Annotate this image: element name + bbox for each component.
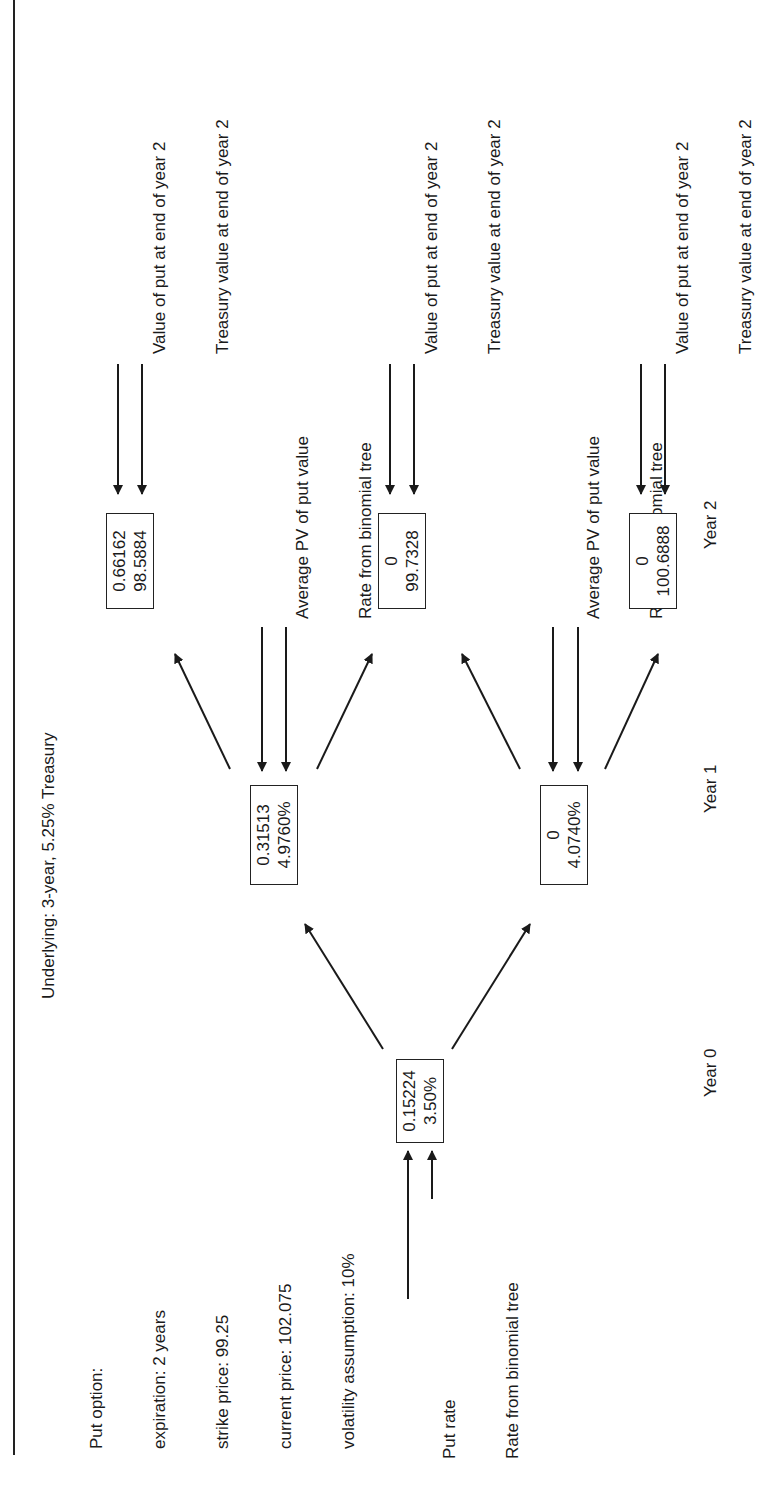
year2-mid-legend: Value of put at end of year 2 Treasury v… xyxy=(379,119,547,354)
node-year2-upup-put: 0.66162 xyxy=(109,520,130,602)
year2-downdown-legend-treasury: Treasury value at end of year 2 xyxy=(735,119,756,354)
node-year2-downdown-put: 0 xyxy=(632,520,653,602)
year-label-1: Year 1 xyxy=(700,764,721,813)
year2-downdown-legend-put: Value of put at end of year 2 xyxy=(672,119,693,354)
year2-mid-legend-treasury: Treasury value at end of year 2 xyxy=(484,119,505,354)
node-year0-rate: 3.50% xyxy=(420,1066,441,1136)
node-year2-upup-treasury: 98.5884 xyxy=(130,520,151,602)
year-label-0: Year 0 xyxy=(700,1048,721,1097)
node-year2-mid-treasury: 99.7328 xyxy=(402,520,423,602)
node-year0: 0.15224 3.50% xyxy=(396,1059,444,1143)
node-year1-down: 0 4.0740% xyxy=(540,785,588,885)
node-year1-up-put: 0.31513 xyxy=(253,792,274,878)
node-year1-down-put: 0 xyxy=(543,792,564,878)
node-year2-upup: 0.66162 98.5884 xyxy=(106,513,154,609)
year1-up-legend-rate: Rate from binomial tree xyxy=(355,436,376,619)
node-year2-mid-put: 0 xyxy=(381,520,402,602)
year2-upup-legend: Value of put at end of year 2 Treasury v… xyxy=(107,119,275,354)
year1-down-legend: Average PV of put value Rate from binomi… xyxy=(541,436,709,619)
year2-mid-legend-put: Value of put at end of year 2 xyxy=(421,119,442,354)
year2-upup-legend-put: Value of put at end of year 2 xyxy=(149,119,170,354)
node-year2-downdown: 0 100.6888 xyxy=(629,513,677,609)
year-label-2: Year 2 xyxy=(700,500,721,549)
node-year1-down-rate: 4.0740% xyxy=(564,792,585,878)
year0-legend: Put rate Rate from binomial tree xyxy=(397,1282,565,1459)
year2-downdown-legend: Value of put at end of year 2 Treasury v… xyxy=(630,119,759,354)
node-year1-up-rate: 4.9760% xyxy=(274,792,295,878)
year1-down-legend-avg-pv: Average PV of put value xyxy=(583,436,604,619)
year1-up-legend-avg-pv: Average PV of put value xyxy=(292,436,313,619)
node-year1-up: 0.31513 4.9760% xyxy=(250,785,298,885)
node-year2-downdown-treasury: 100.6888 xyxy=(653,520,674,602)
year0-legend-rate: Rate from binomial tree xyxy=(502,1282,523,1459)
node-year2-mid: 0 99.7328 xyxy=(378,513,426,609)
year0-legend-put-rate: Put rate xyxy=(439,1282,460,1459)
node-year0-put: 0.15224 xyxy=(399,1066,420,1136)
year2-upup-legend-treasury: Treasury value at end of year 2 xyxy=(212,119,233,354)
